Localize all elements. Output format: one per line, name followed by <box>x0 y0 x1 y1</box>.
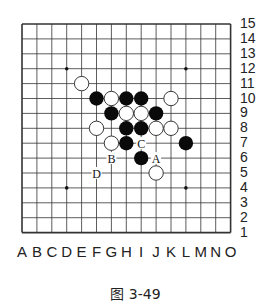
row-label: 3 <box>240 195 264 209</box>
white-stone <box>164 91 178 105</box>
white-stone <box>134 106 148 120</box>
column-label: D <box>60 243 74 260</box>
marker-label-d: D <box>92 167 101 181</box>
black-stone <box>179 136 193 150</box>
star-point <box>65 67 69 71</box>
black-stone <box>134 121 148 135</box>
white-stone <box>89 121 103 135</box>
row-label: 5 <box>240 165 264 179</box>
star-point <box>184 67 188 71</box>
column-label: L <box>179 243 193 260</box>
black-stone <box>119 136 133 150</box>
white-stone <box>119 106 133 120</box>
star-point <box>65 186 69 190</box>
row-label: 2 <box>240 210 264 224</box>
white-stone <box>149 121 163 135</box>
black-stone <box>119 91 133 105</box>
white-stone <box>164 121 178 135</box>
black-stone <box>119 121 133 135</box>
row-label: 8 <box>240 120 264 134</box>
column-label: K <box>164 243 178 260</box>
white-stone <box>149 166 163 180</box>
marker-label-b: B <box>107 152 115 166</box>
row-label: 11 <box>240 76 264 90</box>
star-point <box>184 186 188 190</box>
column-label: O <box>224 243 238 260</box>
marker-label-a: A <box>152 152 161 166</box>
row-label: 6 <box>240 150 264 164</box>
row-label: 4 <box>240 180 264 194</box>
column-label: H <box>119 243 133 260</box>
column-label: E <box>75 243 89 260</box>
column-label: N <box>209 243 223 260</box>
black-stone <box>149 106 163 120</box>
row-label: 10 <box>240 91 264 105</box>
row-label: 9 <box>240 105 264 119</box>
column-label: J <box>149 243 163 260</box>
black-stone <box>104 106 118 120</box>
white-stone <box>104 91 118 105</box>
column-label: G <box>104 243 118 260</box>
marker-label-c: C <box>137 137 145 151</box>
column-label: B <box>30 243 44 260</box>
white-stone <box>104 136 118 150</box>
row-label: 15 <box>240 16 264 30</box>
row-label: 14 <box>240 31 264 45</box>
row-label: 13 <box>240 46 264 60</box>
column-label: F <box>90 243 104 260</box>
white-stone <box>74 76 88 90</box>
column-label: A <box>15 243 29 260</box>
black-stone <box>89 91 103 105</box>
column-label: M <box>194 243 208 260</box>
row-label: 7 <box>240 135 264 149</box>
figure-caption: 图 3-49 <box>0 283 271 303</box>
column-label: C <box>45 243 59 260</box>
black-stone <box>134 91 148 105</box>
black-stone <box>134 151 148 165</box>
column-label: I <box>134 243 148 260</box>
row-label: 12 <box>240 61 264 75</box>
row-label: 1 <box>240 225 264 239</box>
